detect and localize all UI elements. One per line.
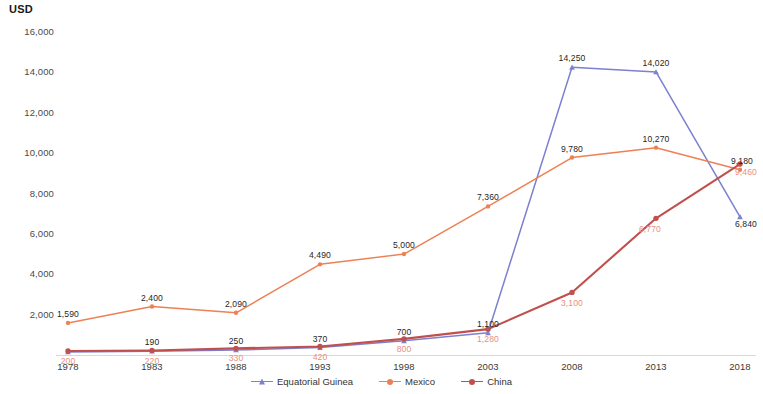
series-line: [68, 164, 740, 351]
line-chart: USD 16,00014,00012,00010,0008,0006,0004,…: [0, 0, 763, 394]
x-axis-tick-label: 1978: [43, 361, 93, 372]
x-axis-tick-label: 1983: [127, 361, 177, 372]
legend-marker-icon-equatorial-guinea: [251, 377, 273, 386]
data-label: 10,270: [643, 134, 670, 144]
data-label: 700: [397, 327, 412, 337]
data-point-marker: [401, 336, 406, 341]
y-axis-tick-label: 10,000: [0, 147, 54, 158]
data-point-marker: [654, 145, 658, 149]
series-china: [65, 161, 742, 353]
data-label: 9,460: [735, 167, 757, 177]
data-label: 800: [397, 344, 412, 354]
data-point-marker: [234, 311, 238, 315]
y-axis-tick-label: 4,000: [0, 268, 54, 279]
legend-label-equatorial-guinea: Equatorial Guinea: [277, 376, 353, 387]
data-point-marker: [318, 262, 322, 266]
data-point-marker: [65, 348, 70, 353]
data-point-marker: [317, 345, 323, 350]
data-label: 2,090: [225, 299, 247, 309]
legend-item-equatorial-guinea[interactable]: Equatorial Guinea: [251, 376, 353, 387]
x-axis-tick-label: 1998: [379, 361, 429, 372]
x-axis-tick-label: 2003: [463, 361, 513, 372]
data-point-marker: [233, 346, 238, 351]
series-equatorial-guinea: [65, 65, 743, 355]
data-point-marker: [65, 349, 71, 354]
data-label: 370: [313, 334, 328, 344]
legend-item-china[interactable]: China: [461, 376, 512, 387]
data-label: 14,020: [643, 58, 670, 68]
x-axis-tick-label: 1988: [211, 361, 261, 372]
series-line: [68, 67, 740, 352]
x-axis-tick-label: 2018: [715, 361, 763, 372]
y-axis-tick-label: 8,000: [0, 188, 54, 199]
y-axis-tick-label: 14,000: [0, 66, 54, 77]
data-label: 2,400: [141, 293, 163, 303]
data-label: 6,770: [639, 224, 661, 234]
legend-marker-icon-mexico: [379, 377, 401, 386]
x-axis-tick-label: 2013: [631, 361, 681, 372]
data-label: 250: [229, 336, 244, 346]
data-point-marker: [149, 348, 154, 353]
data-label: 1,100: [477, 319, 499, 329]
data-label: 1,590: [57, 309, 79, 319]
y-axis-tick-label: 6,000: [0, 228, 54, 239]
data-label: 9,780: [561, 144, 583, 154]
data-label: 5,000: [393, 240, 415, 250]
legend-label-mexico: Mexico: [405, 376, 435, 387]
data-point-marker: [317, 344, 322, 349]
data-label: 7,360: [477, 192, 499, 202]
data-point-marker: [653, 216, 658, 221]
series-line: [68, 148, 740, 323]
data-point-marker: [233, 347, 239, 352]
data-label: 4,490: [309, 250, 331, 260]
data-label: 190: [145, 337, 160, 347]
series-mexico: [66, 145, 742, 325]
data-label: 1,280: [477, 334, 499, 344]
y-axis-tick-label: 12,000: [0, 107, 54, 118]
y-axis-title: USD: [9, 3, 33, 15]
data-point-marker: [653, 69, 659, 74]
y-axis-tick-label: 16,000: [0, 26, 54, 37]
data-point-marker: [569, 65, 575, 70]
data-label: 3,100: [561, 298, 583, 308]
x-axis-line: [56, 355, 756, 356]
data-point-marker: [570, 155, 574, 159]
data-point-marker: [149, 348, 155, 353]
data-point-marker: [486, 204, 490, 208]
chart-legend: Equatorial Guinea Mexico China: [0, 376, 763, 387]
y-axis-tick-label: 2,000: [0, 309, 54, 320]
data-point-marker: [401, 338, 407, 343]
data-point-marker: [150, 304, 154, 308]
data-point-marker: [402, 252, 406, 256]
x-axis-tick-label: 1993: [295, 361, 345, 372]
legend-marker-icon-china: [461, 377, 483, 386]
x-axis-tick-label: 2008: [547, 361, 597, 372]
legend-item-mexico[interactable]: Mexico: [379, 376, 435, 387]
legend-label-china: China: [487, 376, 512, 387]
data-point-marker: [569, 290, 574, 295]
data-label: 14,250: [559, 53, 586, 63]
data-label: 6,840: [735, 219, 757, 229]
data-point-marker: [66, 321, 70, 325]
data-label: 9,180: [731, 156, 753, 166]
